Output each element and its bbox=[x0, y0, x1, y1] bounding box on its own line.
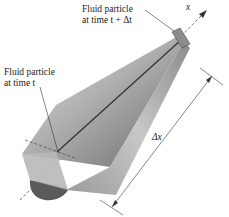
label-top-line2: at time t + Δt bbox=[82, 15, 133, 26]
dimension-label: Δx bbox=[152, 132, 162, 143]
label-particle-t: Fluid particle at time t bbox=[4, 67, 55, 89]
streamtube-body bbox=[22, 36, 190, 200]
leader-top bbox=[145, 10, 174, 31]
axis-label-x: x bbox=[186, 2, 190, 13]
label-particle-t-plus-dt: Fluid particle at time t + Δt bbox=[82, 4, 133, 26]
label-left-line2: at time t bbox=[4, 78, 55, 89]
label-top-line1: Fluid particle bbox=[82, 4, 133, 15]
streamtube-diagram bbox=[0, 0, 229, 217]
label-left-line1: Fluid particle bbox=[4, 67, 55, 78]
